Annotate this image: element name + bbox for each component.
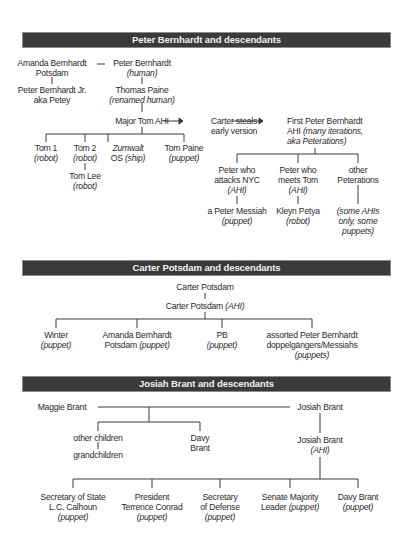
node-name: Peter who	[278, 165, 318, 175]
node-type: (puppet)	[289, 502, 319, 512]
node-name: Amanda Bernhardt	[18, 58, 87, 68]
node-peter-meets-tom: Peter who meets Tom (AHI)	[278, 165, 318, 195]
node-type: (robot)	[286, 216, 310, 226]
section-header-carter-potsdam: Carter Potsdam and descendants	[22, 260, 391, 276]
node-zumwalt-os: Zumwalt OS (ship)	[111, 143, 146, 163]
node-name: grandchildren	[73, 450, 122, 460]
node-name: Zumwalt	[112, 143, 143, 153]
node-peter-attacks-nyc: Peter who attacks NYC (AHI)	[214, 165, 260, 195]
node-type: (puppet)	[343, 502, 373, 512]
node-type: only, some	[339, 216, 378, 226]
node-amanda-puppet: Amanda Bernhardt Potsdam (puppet)	[103, 330, 172, 350]
node-senate-majority-leader: Senate Majority Leader (puppet)	[261, 492, 319, 512]
node-type: (AHI)	[225, 301, 244, 311]
node-name: First Peter Bernhardt	[287, 116, 363, 126]
node-type: (puppet)	[169, 153, 199, 163]
node-type: (human)	[127, 68, 158, 78]
node-kleyn-petya: Kleyn Petya (robot)	[276, 206, 320, 226]
node-amanda-bernhardt-potsdam: Amanda Bernhardt Potsdam	[18, 58, 87, 78]
node-name: of Defense	[200, 502, 240, 512]
node-type: (puppet)	[205, 512, 235, 522]
section-header-peter-bernhardt: Peter Bernhardt and descendants	[22, 32, 391, 48]
node-type: (renamed human)	[109, 95, 174, 105]
node-name: PB	[207, 330, 237, 340]
node-name: Brant	[190, 443, 210, 453]
node-carter-potsdam: Carter Potsdam	[176, 282, 233, 292]
node-name: aka Petey	[18, 95, 86, 105]
node-other-children: other children	[73, 433, 122, 443]
node-name: Peterations	[337, 175, 378, 185]
node-type: (some AHIs	[337, 206, 380, 216]
node-name: Tom 1	[34, 143, 58, 153]
node-tom-paine-puppet: Tom Paine (puppet)	[165, 143, 204, 163]
node-some-ahis: (some AHIs only, some puppets)	[337, 206, 380, 236]
node-name: other	[337, 165, 378, 175]
node-type: (puppet)	[139, 340, 169, 350]
node-type: (puppet)	[207, 340, 237, 350]
node-name: assorted Peter Bernhardt	[266, 330, 357, 340]
section-header-josiah-brant: Josiah Brant and descendants	[22, 376, 391, 392]
node-first-peter-bernhardt-ahi: First Peter Bernhardt AHI (many iteratio…	[287, 116, 363, 146]
node-tom-2: Tom 2 (robot)	[73, 143, 97, 163]
node-name: Leader	[261, 502, 289, 512]
node-thomas-paine: Thomas Paine (renamed human)	[109, 85, 174, 105]
node-name: attacks NYC	[214, 175, 260, 185]
node-type: (ship)	[125, 153, 145, 163]
node-name: Davy	[190, 433, 210, 443]
node-type: (puppets)	[295, 350, 330, 360]
node-peter-bernhardt-jr: Peter Bernhardt Jr. aka Petey	[18, 85, 86, 105]
node-type: (puppet)	[222, 216, 252, 226]
node-type: (puppet)	[58, 512, 88, 522]
node-secretary-of-defense: Secretary of Defense (puppet)	[200, 492, 240, 522]
node-type: (puppet)	[41, 340, 71, 350]
connector-lines	[0, 0, 409, 552]
node-name: Winter	[41, 330, 71, 340]
node-tom-lee: Tom Lee (robot)	[69, 171, 101, 191]
node-name: Carter Potsdam	[166, 301, 226, 311]
node-name: Peter who	[214, 165, 260, 175]
node-type: (robot)	[73, 181, 97, 191]
node-name: Secretary of State	[40, 492, 105, 502]
node-type: aka Peterations)	[287, 136, 346, 146]
node-type: (AHI)	[288, 185, 307, 195]
node-name: Tom Paine	[165, 143, 204, 153]
node-name: early version	[211, 126, 257, 136]
node-name: Major Tom AHI	[115, 116, 169, 126]
node-name: President	[121, 492, 182, 502]
node-name: Kleyn Petya	[276, 206, 320, 216]
node-peter-bernhardt: Peter Bernhardt (human)	[113, 58, 171, 78]
node-name: L.C. Calhoun	[40, 502, 105, 512]
node-josiah-brant-ahi: Josiah Brant (AHI)	[297, 435, 342, 455]
node-name: Secretary	[200, 492, 240, 502]
node-name: Carter Potsdam	[176, 282, 233, 292]
node-carter-steals: Carter steals early version	[211, 116, 257, 136]
node-name: Amanda Bernhardt	[103, 330, 172, 340]
node-name: meets Tom	[278, 175, 318, 185]
node-type: (AHI)	[227, 185, 246, 195]
node-major-tom-ahi: Major Tom AHI	[115, 116, 169, 126]
node-name: OS	[111, 153, 125, 163]
node-name: Potsdam	[104, 340, 139, 350]
node-name: Maggie Brant	[38, 402, 87, 412]
node-peter-messiah: a Peter Messiah (puppet)	[207, 206, 266, 226]
node-name: Carter steals	[211, 116, 257, 126]
node-name: Peter Bernhardt	[113, 58, 171, 68]
node-pb: PB (puppet)	[207, 330, 237, 350]
node-type: (robot)	[34, 153, 58, 163]
node-winter: Winter (puppet)	[41, 330, 71, 350]
node-type: puppets)	[342, 226, 374, 236]
node-type: (AHI)	[310, 445, 329, 455]
node-davy-brant-puppet: Davy Brant (puppet)	[338, 492, 379, 512]
node-secretary-of-state: Secretary of State L.C. Calhoun (puppet)	[40, 492, 105, 522]
node-name: Josiah Brant	[297, 402, 342, 412]
node-type: (puppet)	[137, 512, 167, 522]
node-name: Tom Lee	[69, 171, 101, 181]
node-name: AHI	[287, 126, 303, 136]
node-carter-potsdam-ahi: Carter Potsdam (AHI)	[166, 301, 245, 311]
node-maggie-brant: Maggie Brant	[38, 402, 87, 412]
node-josiah-brant: Josiah Brant	[297, 402, 342, 412]
node-name: Potsdam	[18, 68, 87, 78]
node-name: Terrence Conrad	[121, 502, 182, 512]
node-name: Davy Brant	[338, 492, 379, 502]
node-president: President Terrence Conrad (puppet)	[121, 492, 182, 522]
